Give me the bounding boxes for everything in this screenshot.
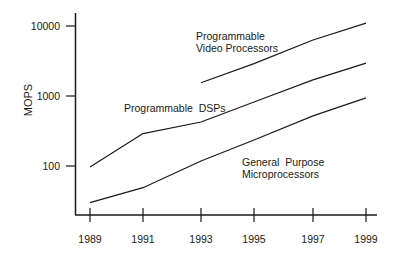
x-tick-label: 1989 xyxy=(78,233,102,245)
y-tick-label: 1000 xyxy=(37,90,61,102)
series-line-dsps xyxy=(90,63,366,167)
x-tick-label: 1999 xyxy=(354,233,378,245)
series-label-gp: Microprocessors xyxy=(242,168,319,180)
y-tick-label: 100 xyxy=(42,160,60,172)
series-label-video: Video Processors xyxy=(196,42,278,54)
y-axis-title: MOPS xyxy=(22,84,34,116)
x-tick-label: 1995 xyxy=(242,233,266,245)
x-tick-label: 1997 xyxy=(301,233,325,245)
line-chart: MOPS 100100010000 1989199119931995199719… xyxy=(0,0,396,263)
x-ticks: 198919911993199519971999 xyxy=(78,208,378,245)
series-label-gp: General Purpose xyxy=(242,156,324,168)
y-ticks: 100100010000 xyxy=(31,20,76,172)
x-tick-label: 1991 xyxy=(131,233,155,245)
series-label-video: Programmable xyxy=(196,30,265,42)
series-label-dsp: Programmable DSPs xyxy=(124,102,226,114)
y-tick-label: 10000 xyxy=(31,20,60,32)
x-tick-label: 1993 xyxy=(189,233,213,245)
